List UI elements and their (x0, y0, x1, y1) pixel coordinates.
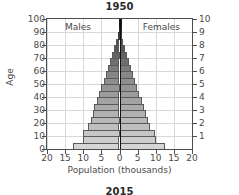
y-tick-label-right: 8 (199, 41, 219, 50)
y-tick-label-right: 4 (199, 93, 219, 102)
y-axis-label: Age (5, 53, 15, 101)
bar-male (93, 110, 120, 118)
y-tick-mark-left (42, 19, 46, 20)
panel-label-females: Females (143, 22, 180, 32)
y-tick-mark-right (193, 123, 197, 124)
y-tick-mark-right (193, 19, 197, 20)
y-tick-mark-left (42, 149, 46, 150)
x-tick-mark (83, 150, 84, 154)
bar-female (120, 71, 133, 79)
bar-female (120, 91, 140, 99)
population-pyramid-figure: 1950 Age Males Females 10090807060504030… (0, 0, 239, 195)
bar-female (120, 104, 145, 112)
y-tick-label-right: 6 (199, 67, 219, 76)
y-tick-mark-right (193, 58, 197, 59)
x-tick-mark (101, 150, 102, 154)
y-tick-mark-right (193, 136, 197, 137)
y-tick-label-right: 10 (199, 15, 219, 24)
bar-male (88, 123, 119, 131)
x-tick-mark (192, 150, 193, 154)
y-tick-mark-right (193, 84, 197, 85)
center-axis-line (120, 19, 121, 149)
bar-male (97, 97, 120, 105)
bar-male (106, 71, 120, 79)
bar-male (91, 117, 120, 125)
bar-female (120, 84, 138, 92)
y-tick-mark-left (42, 71, 46, 72)
x-tick-mark (174, 150, 175, 154)
x-axis-label: Population (thousands) (0, 165, 239, 175)
bar-male (112, 52, 119, 60)
bar-male (110, 58, 119, 66)
y-tick-label-right: 2 (199, 119, 219, 128)
y-tick-mark-left (42, 123, 46, 124)
bar-male (94, 104, 119, 112)
bar-female (120, 97, 142, 105)
y-tick-mark-left (42, 45, 46, 46)
bar-male (73, 143, 119, 151)
bar-female (120, 123, 151, 131)
bar-female (120, 143, 166, 151)
x-tick-label: 20 (181, 153, 203, 163)
x-tick-mark (65, 150, 66, 154)
y-tick-label-right: 5 (199, 80, 219, 89)
bar-female (120, 65, 131, 73)
y-tick-mark-right (193, 110, 197, 111)
y-tick-mark-right (193, 32, 197, 33)
chart-title: 1950 (0, 1, 239, 12)
plot-area: Males Females (46, 18, 193, 150)
bar-female (120, 130, 156, 138)
bar-female (120, 110, 146, 118)
y-tick-label-right: 1 (199, 132, 219, 141)
next-chart-title: 2015 (0, 186, 239, 195)
y-tick-mark-right (193, 45, 197, 46)
bar-male (108, 65, 120, 73)
bar-male (104, 78, 120, 86)
y-tick-mark-right (193, 97, 197, 98)
y-tick-label-right: 3 (199, 106, 219, 115)
y-tick-mark-left (42, 136, 46, 137)
x-tick-mark (47, 150, 48, 154)
y-tick-mark-right (193, 71, 197, 72)
x-tick-mark (120, 150, 121, 154)
bar-female (120, 78, 136, 86)
bar-male (99, 91, 119, 99)
bar-male (83, 130, 119, 138)
y-tick-label-right: 7 (199, 54, 219, 63)
y-tick-label-right: 9 (199, 28, 219, 37)
y-tick-mark-left (42, 110, 46, 111)
x-tick-mark (156, 150, 157, 154)
x-tick-mark (138, 150, 139, 154)
y-tick-mark-left (42, 32, 46, 33)
bar-female (120, 136, 157, 144)
y-tick-mark-left (42, 97, 46, 98)
bar-female (120, 117, 149, 125)
bar-male (101, 84, 119, 92)
y-tick-mark-left (42, 58, 46, 59)
panel-label-males: Males (65, 22, 91, 32)
bar-male (83, 136, 120, 144)
y-tick-mark-left (42, 84, 46, 85)
